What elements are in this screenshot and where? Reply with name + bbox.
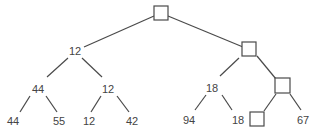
edge-root-R [168, 16, 243, 47]
node-RR-box [275, 78, 290, 93]
node-RLR: 18 [232, 114, 244, 126]
node-RLL: 94 [183, 114, 195, 126]
node-root-box [154, 6, 168, 20]
edge-root-L [84, 16, 154, 47]
node-RL: 18 [206, 82, 218, 94]
tree-diagram: 12 44 12 44 55 12 42 18 94 18 67 [0, 0, 316, 132]
node-RRR: 67 [297, 114, 309, 126]
edge-L-LR [82, 58, 102, 77]
node-LLL: 44 [7, 115, 19, 127]
node-LRR: 42 [126, 115, 138, 127]
edge-R-RR [257, 56, 276, 79]
edge-RR-RRL [264, 94, 276, 111]
edge-LR-LRL [91, 96, 101, 112]
node-L: 12 [69, 45, 81, 57]
edge-LL-LLR [46, 96, 57, 112]
edge-R-RL [220, 58, 239, 76]
node-R-box [242, 42, 256, 56]
node-LRL: 12 [83, 115, 95, 127]
node-LL: 44 [32, 83, 44, 95]
edge-LR-LRR [117, 96, 129, 112]
edge-RL-RLR [222, 95, 232, 110]
edge-L-LL [47, 58, 68, 77]
edge-LL-LLL [20, 96, 30, 112]
node-RRL-box [250, 112, 264, 126]
edge-RL-RLL [195, 95, 206, 110]
node-LR: 12 [102, 83, 114, 95]
edge-RR-RRR [290, 94, 301, 110]
node-LLR: 55 [53, 115, 65, 127]
